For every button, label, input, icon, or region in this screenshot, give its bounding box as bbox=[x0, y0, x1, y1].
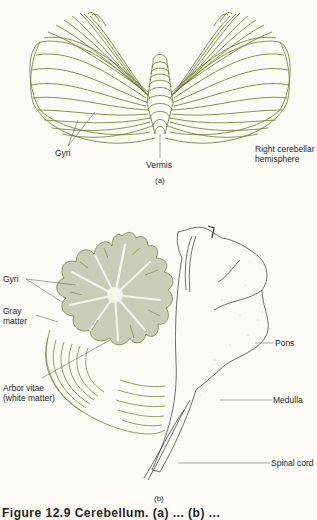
left-hemisphere-folia bbox=[30, 12, 155, 143]
label-right-hemisphere: Right cerebellar hemisphere bbox=[255, 144, 315, 164]
sublabel-a: (a) bbox=[155, 176, 165, 185]
label-gray-matter: Gray matter bbox=[3, 306, 27, 326]
label-medulla: Medulla bbox=[273, 395, 303, 405]
label-gray-matter-line1: Gray bbox=[3, 306, 27, 316]
sublabel-b: (b) bbox=[154, 494, 164, 503]
cerebellum-sagittal-view bbox=[26, 226, 273, 480]
figure-caption: Figure 12.9 Cerebellum. (a) ... (b) ... bbox=[2, 506, 220, 520]
label-spinal-cord: Spinal cord bbox=[271, 458, 314, 468]
folia-lower bbox=[46, 330, 165, 434]
label-arbor-vitae: Arbor vitae (white matter) bbox=[3, 383, 55, 403]
right-hemisphere-folia bbox=[165, 12, 290, 143]
label-gray-matter-line2: matter bbox=[3, 316, 27, 326]
label-arbor-vitae-line2: (white matter) bbox=[3, 393, 55, 403]
vermis-segments bbox=[147, 55, 173, 135]
label-pons: Pons bbox=[275, 338, 294, 348]
label-right-hemisphere-line1: Right cerebellar bbox=[255, 144, 315, 154]
label-gyri-b: Gyri bbox=[3, 274, 19, 284]
label-gyri-a: Gyri bbox=[55, 148, 71, 158]
label-right-hemisphere-line2: hemisphere bbox=[255, 154, 315, 164]
label-arbor-vitae-line1: Arbor vitae bbox=[3, 383, 55, 393]
label-vermis: Vermis bbox=[146, 160, 172, 170]
cerebellum-superior-view bbox=[30, 12, 290, 158]
